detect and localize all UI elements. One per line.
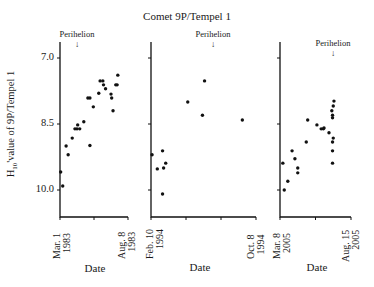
x-end-1994: Oct. 8 1994 [246, 235, 266, 259]
data-point [296, 171, 299, 174]
panel-2005 [277, 42, 351, 220]
data-point [281, 161, 284, 164]
data-point [331, 140, 334, 143]
data-point [109, 92, 112, 95]
x-axis-label-1994: Date [175, 261, 225, 273]
data-point [92, 105, 95, 108]
data-point [283, 188, 286, 191]
x-end-1983: Aug. 8 1983 [117, 232, 137, 259]
data-point [305, 140, 308, 143]
perihelion-annotation-1983: Perihelion ↓ [47, 29, 107, 49]
data-point [327, 131, 330, 134]
data-point [150, 153, 153, 156]
data-point [203, 79, 206, 82]
down-arrow-icon: ↓ [303, 48, 363, 58]
panel-1983 [57, 42, 128, 220]
data-point [306, 118, 309, 121]
data-point [315, 123, 318, 126]
axis-lines [280, 42, 351, 217]
data-point [104, 87, 107, 90]
data-point [71, 136, 74, 139]
data-point [161, 149, 164, 152]
data-point [331, 161, 334, 164]
data-point [101, 79, 104, 82]
data-point [110, 96, 113, 99]
data-point [162, 166, 165, 169]
data-point [76, 123, 79, 126]
x-start-2005: Mar. 8 2005 [272, 233, 292, 259]
data-point [115, 83, 118, 86]
data-point [111, 109, 114, 112]
data-point [64, 144, 67, 147]
data-point [116, 73, 119, 76]
data-point [331, 149, 334, 152]
data-point [88, 144, 91, 147]
x-axis-label-2005: Date [292, 261, 342, 273]
data-point [97, 92, 100, 95]
data-point [161, 192, 164, 195]
data-point [102, 83, 105, 86]
x-end-2005: Aug. 15 2005 [341, 230, 361, 262]
data-point [59, 170, 62, 173]
data-point [164, 161, 167, 164]
data-point [286, 180, 289, 183]
down-arrow-icon: ↓ [47, 39, 107, 49]
data-point [296, 166, 299, 169]
axis-lines [151, 42, 256, 217]
data-point [332, 136, 335, 139]
down-arrow-icon: ↓ [183, 39, 243, 49]
data-point [78, 127, 81, 130]
data-point [201, 114, 204, 117]
perihelion-label: Perihelion [47, 29, 107, 39]
data-point [332, 104, 335, 107]
data-point [332, 99, 335, 102]
data-point [290, 149, 293, 152]
data-point [156, 167, 159, 170]
axis-lines [60, 42, 128, 217]
x-axis-label-1983: Date [70, 262, 120, 274]
data-point [88, 96, 91, 99]
perihelion-annotation-2005: Perihelion ↓ [303, 38, 363, 58]
perihelion-annotation-1994: Perihelion ↓ [183, 29, 243, 49]
x-start-1983: Mar. 1 1983 [52, 233, 72, 259]
data-point [330, 109, 333, 112]
data-point [186, 100, 189, 103]
data-point [61, 184, 64, 187]
data-point [82, 120, 85, 123]
panel-1994 [148, 42, 256, 220]
data-point [322, 126, 325, 129]
data-point [241, 118, 244, 121]
data-point [293, 157, 296, 160]
perihelion-label: Perihelion [183, 29, 243, 39]
data-point [66, 153, 69, 156]
x-start-1994: Feb. 10 1994 [145, 229, 165, 259]
data-point [331, 116, 334, 119]
perihelion-label: Perihelion [303, 38, 363, 48]
